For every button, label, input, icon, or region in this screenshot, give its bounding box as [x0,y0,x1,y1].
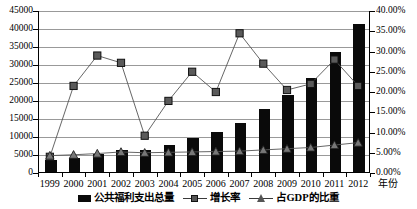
y-axis-left-tick-label: 10000 [0,132,33,142]
y-axis-right-tick-label: 15.00% [376,107,417,117]
y-axis-right-tick-label: 20.00% [376,87,417,97]
x-axis-tick-label: 2012 [344,178,372,189]
x-axis-tick [62,173,63,177]
y-axis-right-tick [370,72,375,73]
chart-legend: 公共福利支出总量 增长率 占GDP的比重 [0,192,417,204]
y-axis-right-tick-label: 5.00% [376,148,417,158]
y-axis-left-tick-label: 40000 [0,24,33,34]
data-point-square-marker [307,80,314,87]
y-axis-right-tick-label: 0.00% [376,168,417,178]
data-point-square-marker [165,97,172,104]
data-point-square-marker [260,60,267,67]
legend-item-growth[interactable]: 增长率 [183,192,240,204]
legend-label-growth: 增长率 [210,192,240,204]
y-axis-right-tick [370,31,375,32]
x-axis-tick [85,173,86,177]
y-axis-right-tick-label: 30.00% [376,47,417,57]
x-axis-tick [157,173,158,177]
y-axis-left-tick-label: 15000 [0,114,33,124]
y-axis-right-tick [370,52,375,53]
line-series-overlay [38,11,370,173]
data-point-square-marker [94,52,101,59]
data-point-square-marker [283,86,290,93]
data-point-square-marker [236,30,243,37]
y-axis-left-tick-label: 20000 [0,96,33,106]
x-axis-tick [204,173,205,177]
y-axis-right-tick [370,11,375,12]
x-axis-tick [323,173,324,177]
y-axis-left-tick-label: 5000 [0,150,33,160]
legend-item-total[interactable]: 公共福利支出总量 [78,192,174,204]
line-triangle-swatch-icon [249,194,273,202]
data-point-square-marker [70,82,77,89]
line-square-swatch-icon [183,194,207,202]
y-axis-right-tick [370,92,375,93]
data-point-square-marker [117,59,124,66]
x-axis-tick [109,173,110,177]
y-axis-left-tick-label: 25000 [0,78,33,88]
y-axis-right-tick [370,133,375,134]
legend-label-gdp-share: 占GDP的比重 [276,192,338,204]
y-axis-right-tick-label: 10.00% [376,128,417,138]
y-axis-right-tick-label: 25.00% [376,67,417,77]
x-axis-tick [275,173,276,177]
chart-container: 0500010000150002000025000300003500040000… [0,0,417,209]
y-axis-right-tick [370,153,375,154]
y-axis-right-tick-label: 40.00% [376,6,417,16]
data-point-square-marker [331,56,338,63]
x-axis-tick [346,173,347,177]
legend-item-gdp-share[interactable]: 占GDP的比重 [249,192,338,204]
x-axis-tick [299,173,300,177]
data-point-square-marker [355,82,362,89]
x-axis-tick [133,173,134,177]
data-point-triangle-marker [354,138,362,146]
x-axis-tick [251,173,252,177]
x-axis-tick [370,173,371,177]
y-axis-left-tick-label: 30000 [0,60,33,70]
data-point-square-marker [212,88,219,95]
x-axis-tick [228,173,229,177]
bar-swatch-icon [78,195,91,202]
x-axis-tick [38,173,39,177]
data-point-square-marker [189,68,196,75]
data-point-square-marker [141,132,148,139]
y-axis-right-tick-label: 35.00% [376,26,417,36]
x-axis-tick [180,173,181,177]
x-axis-title: 年份 [378,178,398,189]
y-axis-right-tick [370,112,375,113]
y-axis-left-tick-label: 35000 [0,42,33,52]
y-axis-left-tick-label: 0 [0,168,33,178]
legend-label-total: 公共福利支出总量 [94,192,174,204]
y-axis-left-tick-label: 45000 [0,6,33,16]
